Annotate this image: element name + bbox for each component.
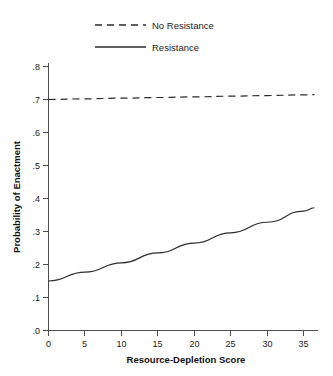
y-axis-tick-labels: .8 .7 .6 .5 .4 .3 .2 .1 .0 [32,62,40,336]
y-axis-title: Probability of Enactment [11,140,22,253]
x-tick-label: 35 [298,339,308,349]
x-tick-label: 20 [189,339,199,349]
y-tick-label: .0 [32,326,40,336]
y-tick-label: .3 [32,227,40,237]
legend-entry-resistance: Resistance [95,42,199,53]
y-tick-label: .1 [32,293,40,303]
x-tick-label: 5 [82,339,87,349]
series-line-resistance [49,208,315,281]
legend-entry-no-resistance: No Resistance [95,20,214,31]
x-axis-tick-labels: 0 5 10 15 20 25 30 35 [46,339,309,349]
legend-label-no-resistance: No Resistance [152,20,214,31]
y-tick-label: .2 [32,260,40,270]
y-tick-label: .4 [32,194,40,204]
x-tick-label: 25 [225,339,235,349]
y-tick-label: .5 [32,161,40,171]
y-tick-label: .7 [32,95,40,105]
chart-legend: No Resistance Resistance [95,20,214,53]
series-line-no-resistance [49,95,315,100]
x-axis-ticks [49,331,304,337]
legend-label-resistance: Resistance [152,42,199,53]
x-tick-label: 0 [46,339,51,349]
x-axis-title: Resource-Depletion Score [127,354,246,365]
y-tick-label: .6 [32,128,40,138]
y-axis-ticks [43,67,49,331]
y-tick-label: .8 [32,62,40,72]
chart-figure: No Resistance Resistance .8 .7 .6 [0,0,333,376]
line-chart: No Resistance Resistance .8 .7 .6 [0,0,333,376]
x-tick-label: 30 [262,339,272,349]
x-tick-label: 10 [116,339,126,349]
x-tick-label: 15 [152,339,162,349]
